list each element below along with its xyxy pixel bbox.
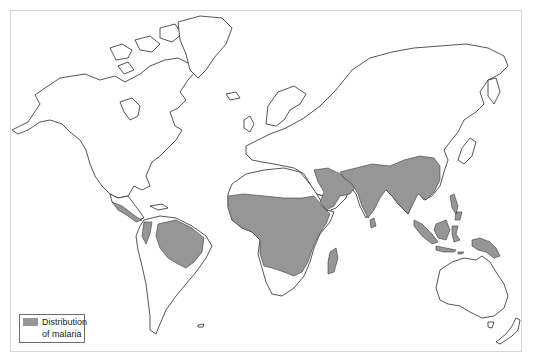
north-america: [12, 58, 195, 198]
malaria-java: [436, 246, 464, 254]
japan: [458, 138, 476, 164]
new-zealand: [496, 318, 520, 344]
caribbean: [150, 204, 168, 210]
central-america: [110, 194, 144, 220]
malaria-sumatra: [414, 220, 438, 244]
malaria-borneo: [434, 220, 450, 240]
falklands: [198, 324, 204, 327]
malaria-sulawesi: [452, 226, 460, 242]
britain: [244, 116, 254, 132]
malaria-new-guinea: [472, 238, 500, 258]
iceland: [226, 92, 240, 100]
kamchatka: [488, 78, 500, 104]
australia: [436, 256, 508, 318]
world-map: [0, 0, 537, 359]
malaria-africa: [228, 194, 330, 276]
malaria-sri-lanka: [370, 218, 376, 228]
legend-label: Distribution of malaria: [42, 316, 87, 340]
malaria-philippines: [450, 194, 462, 220]
tasmania: [488, 322, 494, 328]
malaria-madagascar: [328, 248, 338, 274]
legend-swatch: [23, 318, 38, 326]
map-legend: Distribution of malaria: [19, 314, 85, 343]
